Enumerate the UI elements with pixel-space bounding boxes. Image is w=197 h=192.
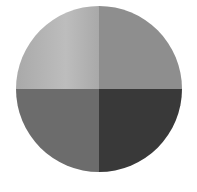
quadrant-top-right: [99, 6, 182, 89]
quadrant-bottom-left: [16, 89, 99, 172]
quadrant-top-left: [16, 6, 99, 89]
quadrant-disc: [16, 6, 182, 172]
quadrant-bottom-right: [99, 89, 182, 172]
